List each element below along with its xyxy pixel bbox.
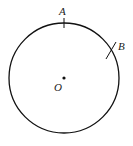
center-point-dot	[62, 76, 65, 79]
label-point-a: A	[58, 5, 66, 17]
circle-diagram: A B O	[0, 0, 133, 146]
label-center-o: O	[54, 81, 62, 93]
label-point-b: B	[118, 40, 125, 52]
